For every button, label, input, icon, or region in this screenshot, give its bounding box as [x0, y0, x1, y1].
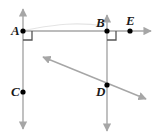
point-label-B: B	[96, 16, 105, 29]
geometry-figure: A B E C D	[0, 0, 163, 137]
point-label-E: E	[126, 14, 135, 27]
faint-curve-group	[25, 24, 105, 30]
line-transversal-through-D	[43, 57, 146, 99]
point-label-D: D	[96, 85, 105, 98]
point-C-dot	[20, 89, 25, 94]
geometry-canvas	[0, 0, 163, 137]
point-label-A: A	[11, 24, 20, 37]
faint-curve-a-to-b	[25, 24, 105, 30]
point-label-C: C	[11, 85, 20, 98]
point-A-dot	[20, 28, 25, 33]
point-B-dot	[104, 28, 109, 33]
point-E-dot	[127, 28, 132, 33]
line-transversal-stroke	[43, 57, 146, 99]
